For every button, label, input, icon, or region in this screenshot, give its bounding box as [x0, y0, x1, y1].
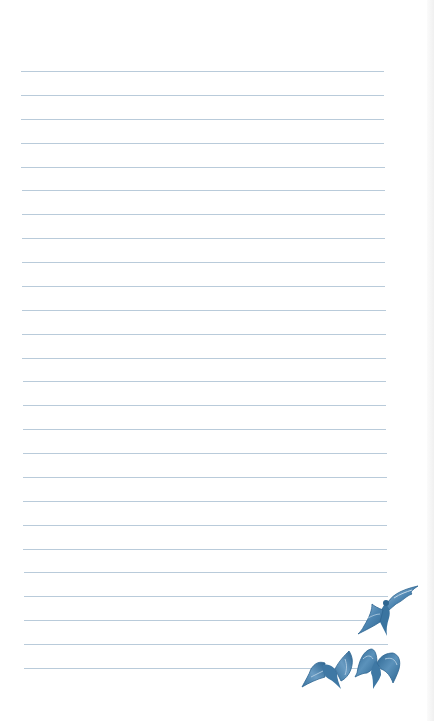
- ruled-line: [23, 501, 387, 502]
- ruled-line: [21, 119, 384, 120]
- ruled-line: [23, 525, 387, 526]
- ruled-line: [22, 190, 385, 191]
- ruled-lines: [0, 0, 434, 721]
- ruled-line: [22, 286, 385, 287]
- ruled-line: [23, 453, 387, 454]
- ruled-line: [24, 620, 388, 621]
- ruled-line: [23, 429, 387, 430]
- ruled-line: [21, 71, 384, 72]
- ruled-line: [24, 572, 388, 573]
- notepaper-page: [0, 0, 434, 721]
- ruled-line: [22, 310, 385, 311]
- page-edge: [427, 0, 434, 721]
- ruled-line: [24, 644, 388, 645]
- ruled-line: [23, 405, 387, 406]
- ruled-line: [21, 95, 384, 96]
- ruled-line: [22, 238, 385, 239]
- ruled-line: [24, 668, 388, 669]
- ruled-line: [22, 334, 385, 335]
- ruled-line: [23, 549, 387, 550]
- ruled-line: [21, 167, 384, 168]
- ruled-line: [24, 596, 388, 597]
- ruled-line: [22, 358, 385, 359]
- ruled-line: [23, 477, 387, 478]
- ruled-line: [21, 143, 384, 144]
- ruled-line: [22, 262, 385, 263]
- ruled-line: [23, 381, 387, 382]
- ruled-line: [22, 214, 385, 215]
